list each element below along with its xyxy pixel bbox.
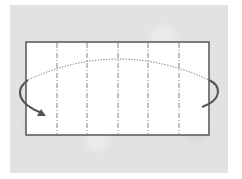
paper-rectangle — [26, 42, 209, 135]
origami-diagram — [0, 0, 242, 179]
